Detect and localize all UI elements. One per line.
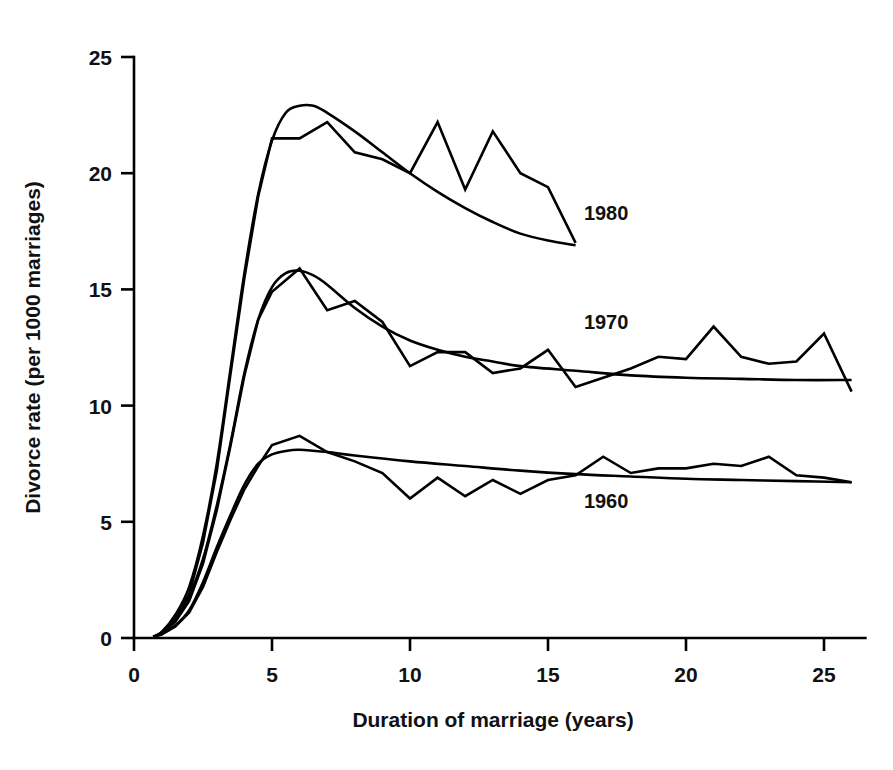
y-tick-label: 25 (89, 46, 113, 69)
x-axis-title: Duration of marriage (years) (352, 708, 633, 731)
observed-line-1980 (153, 122, 575, 637)
y-tick-label: 5 (100, 511, 112, 534)
series-label-1960: 1960 (584, 490, 629, 512)
axes: 05101520250510152025 (89, 46, 866, 686)
smoothed-line-1960 (153, 450, 851, 637)
y-tick-label: 20 (89, 162, 112, 185)
series-label-1980: 1980 (584, 202, 629, 224)
y-axis-title: Divorce rate (per 1000 marriages) (21, 181, 44, 514)
x-tick-label: 25 (812, 663, 836, 686)
series-label-1970: 1970 (584, 311, 629, 333)
x-tick-label: 15 (536, 663, 560, 686)
data-series (153, 105, 851, 637)
x-tick-label: 0 (128, 663, 140, 686)
x-tick-label: 10 (398, 663, 421, 686)
divorce-rate-chart: 05101520250510152025 Duration of marriag… (0, 0, 893, 770)
chart-plot-area: 05101520250510152025 Duration of marriag… (0, 0, 893, 770)
x-tick-label: 5 (266, 663, 278, 686)
x-tick-label: 20 (674, 663, 697, 686)
y-tick-label: 0 (100, 627, 112, 650)
observed-line-1960 (153, 436, 851, 637)
y-tick-label: 10 (89, 395, 112, 418)
y-tick-label: 15 (89, 278, 113, 301)
chart-text-labels: Duration of marriage (years)Divorce rate… (21, 181, 634, 731)
